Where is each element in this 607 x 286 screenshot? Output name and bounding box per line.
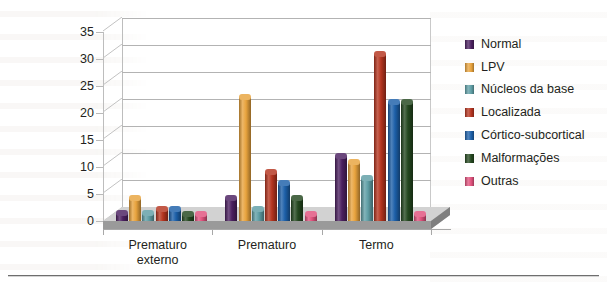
legend-item[interactable]: Localizada	[465, 101, 585, 124]
bar-top-cap	[335, 153, 347, 159]
bar	[252, 209, 264, 221]
legend-item[interactable]: Normal	[465, 33, 585, 56]
legend-label: Córtico-subcortical	[481, 129, 585, 142]
bar-top-cap	[156, 206, 168, 212]
x-axis-category-label-line1: Termo	[322, 238, 431, 253]
y-axis-tick-mark	[96, 194, 103, 195]
x-axis-category-label-line1: Prematuro	[212, 238, 321, 253]
bar-top-cap	[239, 94, 251, 100]
bar	[348, 162, 360, 221]
x-axis-category-label: Termo	[322, 238, 431, 253]
legend-swatch	[465, 177, 474, 186]
bar-face	[239, 97, 251, 221]
bar	[291, 198, 303, 221]
y-axis-tick-mark	[96, 140, 103, 141]
legend-swatch	[465, 108, 474, 117]
bar-face	[129, 198, 141, 221]
legend-label: Outras	[481, 175, 519, 188]
bar	[265, 172, 277, 221]
bar	[142, 213, 154, 221]
bar	[388, 102, 400, 221]
legend-label: Malformações	[481, 152, 560, 165]
bar	[335, 156, 347, 221]
legend-item[interactable]: Córtico-subcortical	[465, 124, 585, 147]
bar-face	[388, 102, 400, 221]
bar-face	[265, 172, 277, 221]
y-axis-tick-mark	[96, 221, 103, 222]
bar	[278, 183, 290, 221]
x-axis-divider	[431, 229, 432, 235]
bar	[225, 198, 237, 221]
bar	[195, 214, 207, 221]
bar-top-cap	[195, 211, 207, 217]
bar-face	[335, 156, 347, 221]
bar-top-cap	[348, 159, 360, 165]
bar-face	[401, 102, 413, 221]
y-axis-tick-mark	[96, 113, 103, 114]
bar	[401, 102, 413, 221]
bar	[361, 178, 373, 221]
y-axis-tick-mark	[96, 59, 103, 60]
bar-top-cap	[265, 169, 277, 175]
bar-top-cap	[169, 206, 181, 212]
legend-label: Localizada	[481, 106, 541, 119]
bar	[169, 209, 181, 221]
legend-item[interactable]: Outras	[465, 170, 585, 193]
legend-swatch	[465, 85, 474, 94]
chart-legend: NormalLPVNúcleos da baseLocalizadaCórtic…	[465, 33, 585, 193]
bar	[182, 214, 194, 221]
bar-top-cap	[116, 210, 128, 216]
bar-face	[374, 54, 386, 221]
bar	[129, 198, 141, 221]
x-axis-divider	[212, 229, 213, 235]
x-axis-category-label-line2: externo	[103, 253, 212, 268]
bar	[239, 97, 251, 221]
legend-swatch	[465, 131, 474, 140]
bar-face	[278, 183, 290, 221]
bar-top-cap	[278, 180, 290, 186]
bar-top-cap	[225, 195, 237, 201]
bar	[374, 54, 386, 221]
bar-face	[348, 162, 360, 221]
bar	[156, 209, 168, 221]
bar-top-cap	[374, 51, 386, 57]
legend-label: Núcleos da base	[481, 83, 574, 96]
y-axis-tick-mark	[96, 86, 103, 87]
bar	[414, 214, 426, 221]
bar-top-cap	[414, 211, 426, 217]
x-axis-category-label: Prematuroexterno	[103, 238, 212, 268]
bar-face	[361, 178, 373, 221]
legend-item[interactable]: Malformações	[465, 147, 585, 170]
bar-top-cap	[305, 211, 317, 217]
y-axis-tick-mark	[96, 32, 103, 33]
legend-label: Normal	[481, 38, 521, 51]
legend-item[interactable]: LPV	[465, 56, 585, 79]
grouped-bar-chart: 35302520151050 PrematuroexternoPrematuro…	[0, 0, 607, 286]
bar-top-cap	[182, 211, 194, 217]
bar-face	[225, 198, 237, 221]
bar-top-cap	[129, 195, 141, 201]
legend-item[interactable]: Núcleos da base	[465, 79, 585, 102]
x-axis-category-label: Prematuro	[212, 238, 321, 253]
y-axis-tick-mark	[96, 167, 103, 168]
bar	[305, 214, 317, 221]
legend-label: LPV	[481, 61, 505, 74]
legend-swatch	[465, 40, 474, 49]
x-axis-category-label-line1: Prematuro	[103, 238, 212, 253]
x-axis-divider	[103, 229, 104, 235]
legend-swatch	[465, 154, 474, 163]
bar-top-cap	[361, 175, 373, 181]
legend-swatch	[465, 63, 474, 72]
x-axis-divider	[322, 229, 323, 235]
bar	[116, 213, 128, 221]
bar-top-cap	[291, 195, 303, 201]
bar-top-cap	[401, 99, 413, 105]
bar-top-cap	[252, 206, 264, 212]
x-axis-line	[103, 229, 451, 230]
page-bottom-rule	[8, 275, 599, 277]
bar-top-cap	[388, 99, 400, 105]
bar-face	[291, 198, 303, 221]
bar-top-cap	[142, 210, 154, 216]
